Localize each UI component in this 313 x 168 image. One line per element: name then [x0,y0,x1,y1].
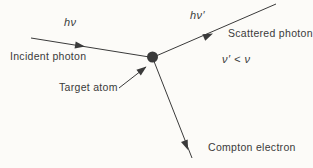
frequency-inequality-label: ν′ < ν [222,53,251,65]
target-atom-dot [147,52,158,63]
incident-arrow-icon [75,41,86,50]
scattered-photon-symbol-label: hν′ [190,9,205,21]
electron-arrow-icon [181,139,191,151]
incident-photon-symbol-label: hν [64,16,77,28]
target-atom-arrow-icon [136,64,148,76]
target-atom-label: Target atom [59,82,118,94]
scattered-photon-label: Scattered photon [228,28,313,40]
compton-scattering-diagram: hν hν′ Incident photon Scattered photon … [0,0,313,168]
incident-photon-label: Incident photon [10,51,86,63]
compton-electron-label: Compton electron [208,142,296,154]
